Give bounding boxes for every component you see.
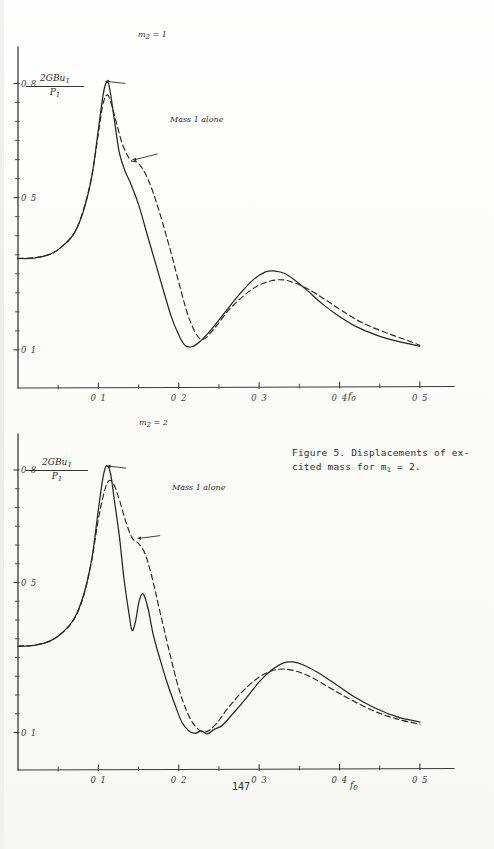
series-dashed-curve bbox=[18, 95, 420, 346]
y-tick-label: 0 5 bbox=[21, 193, 37, 203]
bottom-chart-dashed-label: Mass 1 alone bbox=[172, 484, 225, 492]
bottom-chart-y-axis-label: 2GBu1 P1 bbox=[26, 458, 88, 484]
y-tick-label: 0 1 bbox=[21, 728, 37, 738]
x-tick-label: 0 3 bbox=[251, 775, 268, 785]
x-tick-label: 0 5 bbox=[412, 775, 429, 785]
top-chart-y-axis-label: 2GBu1 P1 bbox=[26, 74, 84, 100]
top-chart-dashed-label: Mass 1 alone bbox=[170, 116, 223, 124]
x-tick-label: 0 1 bbox=[90, 393, 107, 403]
x-tick-label: 0 1 bbox=[90, 775, 107, 785]
series-solid-curve bbox=[18, 466, 420, 734]
x-tick-label: 0 2 bbox=[171, 775, 188, 785]
x-tick-label: 0 4 bbox=[332, 393, 349, 403]
y-tick-label: 0 5 bbox=[21, 578, 37, 588]
top-chart-curve-label: m2 = 1 bbox=[138, 31, 167, 41]
bottom-chart-curve-label: m2 = 2 bbox=[139, 419, 168, 429]
x-tick-label: 0 3 bbox=[251, 393, 268, 403]
bottom-chart-x-axis-label: f0 bbox=[350, 781, 358, 792]
x-tick-label: 0 5 bbox=[412, 393, 429, 403]
page-number: 147 bbox=[232, 781, 250, 792]
y-tick-label: 0 1 bbox=[21, 345, 37, 355]
x-tick-label: 0 2 bbox=[171, 393, 188, 403]
top-chart-x-axis-label: f0 bbox=[348, 392, 356, 403]
x-tick-label: 0 4 bbox=[332, 775, 349, 785]
figure-caption: Figure 5. Displacements of ex-cited mass… bbox=[292, 446, 492, 475]
series-dashed-curve bbox=[18, 480, 420, 732]
scanned-page: 0 10 20 30 40 50 80 50 1 2GBu1 P1 m2 = 1… bbox=[0, 0, 494, 849]
